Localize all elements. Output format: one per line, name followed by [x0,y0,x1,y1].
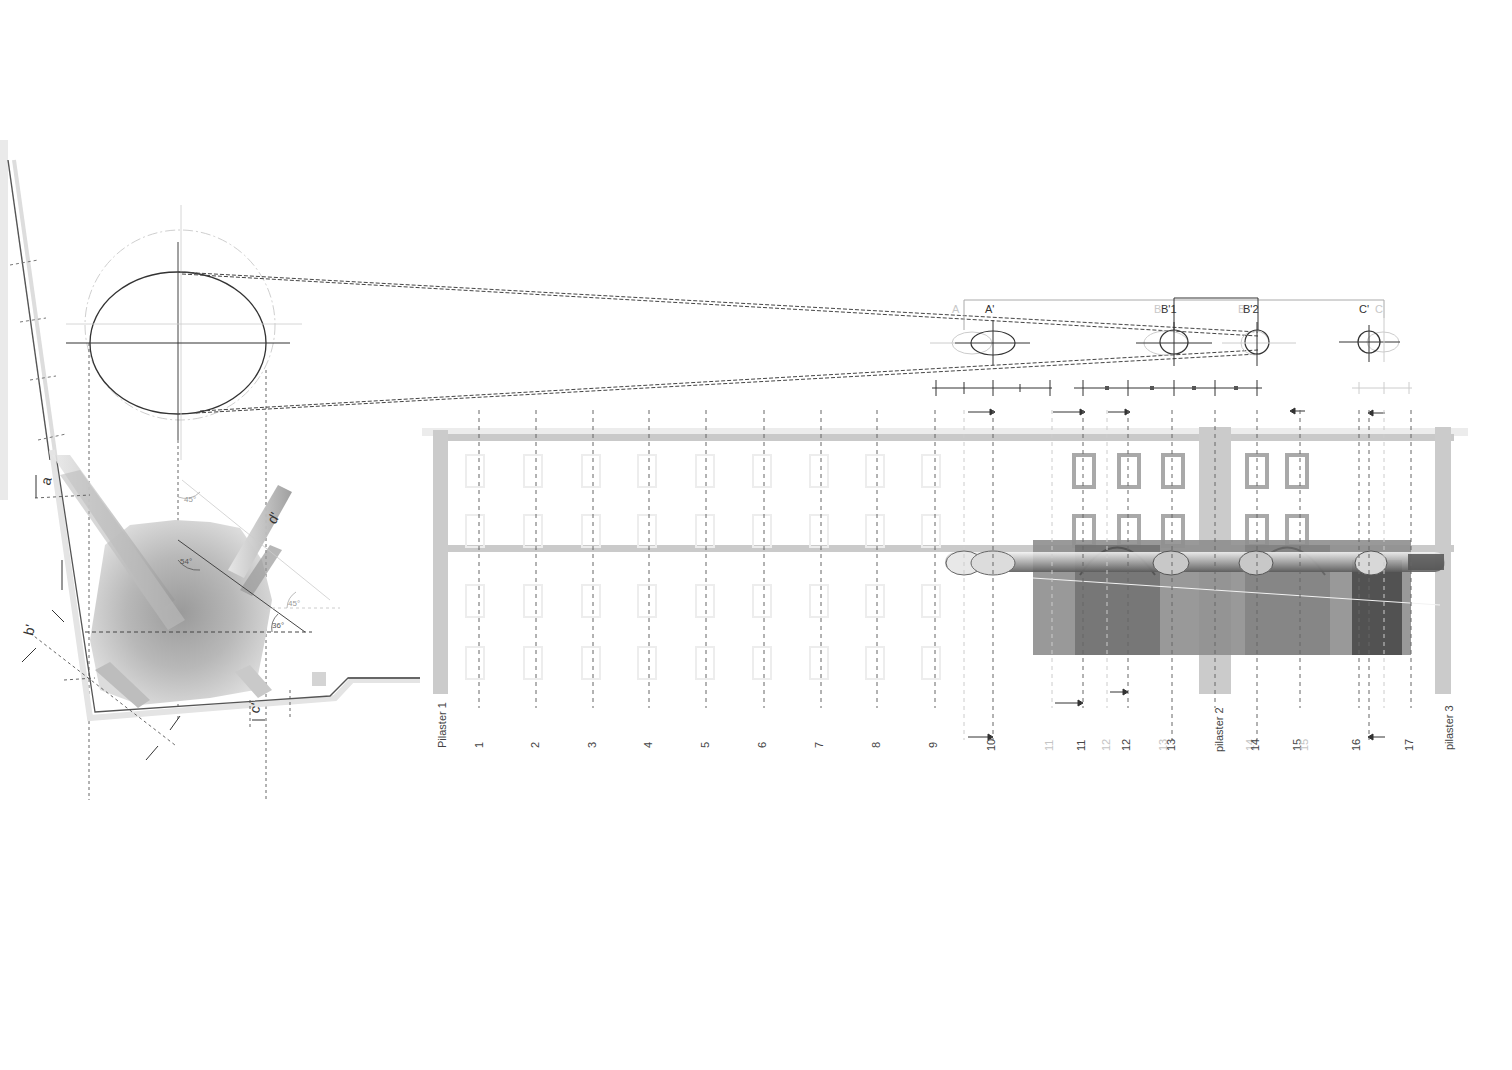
bay-label-2: 2 [529,742,541,748]
bay-label-11: 11 [1075,740,1087,751]
bay-label-10: 10 [985,739,997,751]
projection-rays [178,272,1258,413]
mark-C-faint: C [1375,303,1383,315]
bay-label-7: 7 [813,742,825,748]
drawing-sheet: a b' c' d' 54° 45° 45° 36° A A' B B'1 B … [0,0,1512,1070]
bay-label-15-faint: 15 [1298,739,1310,751]
bay-label-13: 13 [1165,739,1177,751]
bay-label-17: 17 [1403,739,1415,751]
bay-label-4: 4 [642,742,654,748]
label-pilaster-1: Pilaster 1 [436,702,448,748]
angle-label-45-top: 45° [184,495,196,504]
bay-label-5: 5 [699,742,711,748]
label-pilaster-2: pilaster 2 [1213,707,1225,752]
bay-label-16: 16 [1350,739,1362,751]
mark-B1-prime: B'1 [1161,303,1177,315]
elevation-facade [422,427,1468,694]
bay-label-3: 3 [586,742,598,748]
bay-label-11-faint: 11 [1043,740,1055,751]
mark-A-faint: A [952,303,959,315]
projection-mark-A [930,320,1030,365]
bay-label-14: 14 [1249,739,1261,751]
mark-C-prime: C' [1359,303,1369,315]
bay-label-8: 8 [870,742,882,748]
dimension-arrows-bottom [968,689,1385,740]
bay-label-1: 1 [473,742,485,748]
scale-row [932,380,1412,396]
label-pilaster-3: pilaster 3 [1443,705,1455,750]
projection-mark-C [1339,318,1400,362]
bay-label-12-faint: 12 [1100,739,1112,751]
projection-mark-B1 [1136,322,1212,366]
angle-label-36: 36° [272,621,284,630]
angle-label-45-right: 45° [288,599,300,608]
plan-view [22,450,420,760]
pilaster-1 [433,430,448,694]
mark-A-prime: A' [985,303,994,315]
bay-label-6: 6 [756,742,768,748]
mark-B2-prime: B'2 [1243,303,1259,315]
angle-label-54: 54° [180,557,192,566]
bay-label-12: 12 [1120,739,1132,751]
projection-mark-B2 [1222,322,1296,366]
sheet-edge [0,140,66,500]
dimension-arrows-top [968,408,1385,416]
bay-label-9: 9 [927,742,939,748]
